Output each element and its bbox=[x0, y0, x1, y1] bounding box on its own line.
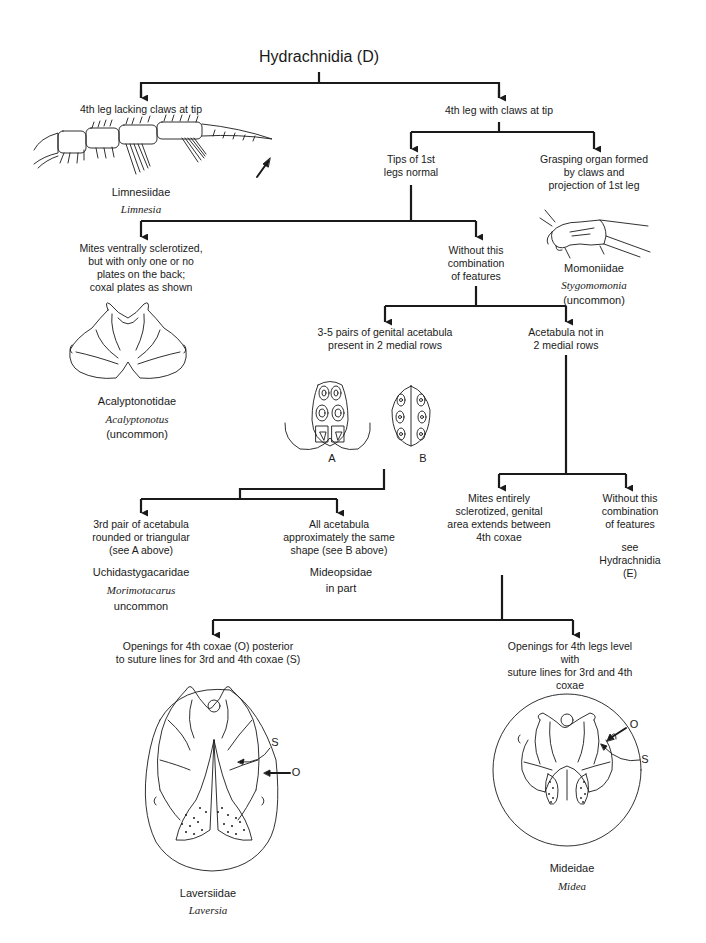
node-mites-entirely-sclerotized: Mites entirely sclerotized, genital area… bbox=[447, 492, 550, 544]
genus-limnesia: Limnesia bbox=[121, 203, 161, 216]
node-3rd-pair-rounded: 3rd pair of acetabula rounded or triangu… bbox=[92, 518, 189, 557]
figure-b-acetabula-illustration bbox=[392, 386, 430, 446]
family-laversiidae: Laversiidae bbox=[180, 887, 236, 900]
node-all-acetabula-same: All acetabula approximately the same sha… bbox=[283, 518, 394, 557]
note-acalyptonotidae-uncommon: (uncommon) bbox=[106, 428, 168, 441]
node-tips-1st-legs-normal: Tips of 1st legs normal bbox=[384, 153, 438, 179]
node-grasping-organ: Grasping organ formed by claws and proje… bbox=[540, 153, 648, 192]
family-acalyptonotidae: Acalyptonotidae bbox=[98, 395, 176, 408]
node-mites-ventrally-sclerotized: Mites ventrally sclerotized, but with on… bbox=[79, 242, 202, 294]
laversia-label-o: O bbox=[292, 766, 301, 779]
family-limnesiidae: Limnesiidae bbox=[112, 186, 171, 199]
key-diagram: Hydrachnidia (D) 4th leg lacking claws a… bbox=[0, 0, 706, 943]
genus-laversia: Laversia bbox=[189, 904, 228, 917]
ref-hydrachnidia-e: see Hydrachnidia (E) bbox=[592, 541, 668, 580]
arrow-icon bbox=[257, 158, 270, 177]
node-4th-leg-with-claws: 4th leg with claws at tip bbox=[445, 104, 553, 117]
family-momoniidae: Momoniidae bbox=[564, 262, 624, 275]
node-without-combination-1: Without this combination of features bbox=[448, 244, 505, 283]
figure-label-b: B bbox=[419, 452, 426, 465]
note-mideopsidae-in-part: in part bbox=[326, 582, 357, 595]
figure-label-a: A bbox=[328, 452, 335, 465]
genus-stygomomonia: Stygomomonia bbox=[561, 279, 626, 292]
node-acetabula-not-medial: Acetabula not in 2 medial rows bbox=[528, 326, 603, 352]
genus-acalyptonotus: Acalyptonotus bbox=[106, 413, 169, 426]
family-mideopsidae: Mideopsidae bbox=[310, 566, 372, 579]
laversia-ventral-illustration bbox=[145, 687, 290, 872]
acalyptonotus-coxal-plates-illustration bbox=[70, 303, 187, 379]
family-uchidastygacaridae: Uchidastygacaridae bbox=[93, 566, 190, 579]
genus-morimotacarus: Morimotacarus bbox=[107, 584, 175, 597]
midea-label-s: S bbox=[641, 753, 648, 766]
stygomomonia-leg-illustration bbox=[540, 210, 650, 258]
node-openings-posterior: Openings for 4th coxae (O) posterior to … bbox=[116, 640, 300, 666]
node-openings-level: Openings for 4th legs level with suture … bbox=[502, 640, 638, 692]
limnesia-leg-illustration bbox=[34, 115, 272, 174]
note-uchidastygacaridae-uncommon: uncommon bbox=[114, 600, 168, 613]
midea-label-o: O bbox=[630, 718, 639, 731]
note-momoniidae-uncommon: (uncommon) bbox=[563, 294, 625, 307]
midea-ventral-illustration bbox=[493, 694, 641, 846]
family-mideidae: Mideidae bbox=[550, 862, 595, 875]
illustrations bbox=[0, 0, 706, 943]
genus-midea: Midea bbox=[558, 880, 586, 893]
node-4th-leg-lacking-claws: 4th leg lacking claws at tip bbox=[80, 103, 202, 116]
diagram-title: Hydrachnidia (D) bbox=[259, 48, 379, 66]
figure-a-acetabula-illustration bbox=[285, 382, 370, 450]
laversia-label-s: S bbox=[271, 736, 278, 749]
node-3-5-pairs-acetabula: 3-5 pairs of genital acetabula present i… bbox=[318, 326, 453, 352]
node-without-combination-2: Without this combination of features bbox=[602, 492, 659, 531]
